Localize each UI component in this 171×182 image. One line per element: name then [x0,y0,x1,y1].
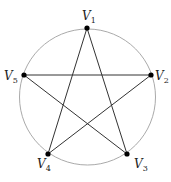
vertex-label-v2: V2 [155,69,169,85]
labels-group: V1V2V3V4V5 [4,9,169,173]
pentagram-diagram: V1V2V3V4V5 [0,0,171,182]
vertex-label-v1: V1 [82,9,96,25]
edge-v2-v4 [48,75,151,154]
vertex-label-v3: V3 [134,157,148,173]
vertex-v1 [84,25,89,30]
vertex-label-v5: V5 [4,69,18,85]
edges-group [24,28,151,154]
vertex-label-v4: V4 [37,157,51,173]
edge-v1-v4 [48,28,87,154]
vertex-v2 [148,72,153,77]
edge-v1-v3 [87,28,127,154]
circumscribed-circle [20,29,156,165]
vertex-v3 [124,151,129,156]
nodes-group [21,25,153,156]
edge-v5-v3 [24,75,127,154]
vertex-v4 [45,151,50,156]
vertex-v5 [21,72,26,77]
